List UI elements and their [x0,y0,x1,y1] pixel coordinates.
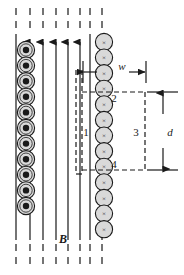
current-x-icon: × [102,117,106,125]
current-x-icon: × [102,210,106,218]
current-x-icon: × [102,39,106,47]
current-x-icon: × [102,70,106,78]
width-dimension [83,61,146,83]
current-dot-icon [23,203,29,209]
current-dot-icon [23,125,29,131]
current-dot-icon [23,156,29,162]
current-dot-icon [23,109,29,115]
current-x-icon: × [102,179,106,187]
current-x-icon: × [102,195,106,203]
loop-side-label-1: 1 [83,126,89,138]
current-x-icon: × [102,226,106,234]
physics-figure: ××××××××××××× B w d 1 2 3 4 [0,0,184,275]
current-x-icon: × [102,148,106,156]
depth-label-d: d [167,126,173,138]
depth-dimension [147,92,178,170]
figure-canvas: ××××××××××××× B w d 1 2 3 4 [0,0,184,275]
current-dot-icon [23,47,29,53]
current-dot-icon [23,140,29,146]
current-x-icon: × [102,101,106,109]
current-dot-icon [23,62,29,68]
current-dot-icon [23,187,29,193]
left-conductor-column [17,41,34,214]
figure-labels: B w d 1 2 3 4 [58,60,173,246]
loop-side-label-2: 2 [111,92,117,104]
loop-side-label-4: 4 [111,158,117,170]
current-dot-icon [23,94,29,100]
current-dot-icon [23,78,29,84]
right-conductor-column: ××××××××××××× [95,33,112,237]
current-x-icon: × [102,132,106,140]
current-dot-icon [23,172,29,178]
field-label-B: B [58,232,67,246]
loop-side-label-3: 3 [133,126,139,138]
current-x-icon: × [102,54,106,62]
width-label-w: w [118,60,126,72]
